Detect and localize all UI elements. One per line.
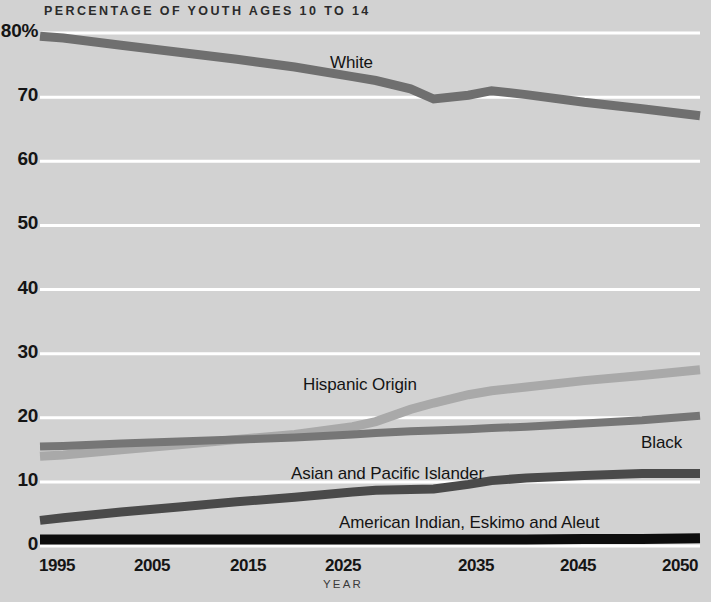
series-label-hispanic: Hispanic Origin: [303, 375, 417, 395]
y-tick-label: 50: [0, 212, 38, 234]
y-tick-label: 0: [0, 533, 38, 555]
x-tick-label: 1995: [39, 556, 75, 576]
y-tick-label: 60: [0, 148, 38, 170]
x-tick-label: 2050: [662, 556, 698, 576]
series-label-white: White: [330, 53, 373, 73]
chart-plot-area: [0, 0, 711, 602]
series-label-asian: Asian and Pacific Islander: [291, 464, 484, 484]
y-tick-label: 40: [0, 277, 38, 299]
x-tick-label: 2005: [134, 556, 170, 576]
x-axis-title: YEAR: [323, 578, 363, 590]
series-line-white: [40, 36, 700, 116]
series-line-american: [40, 538, 700, 539]
x-tick-label: 2045: [560, 556, 596, 576]
y-tick-label: 30: [0, 341, 38, 363]
chart-container: PERCENTAGE OF YOUTH AGES 10 TO 14 80%706…: [0, 0, 711, 602]
series-label-amerindian: American Indian, Eskimo and Aleut: [339, 513, 599, 533]
x-tick-label: 2035: [458, 556, 494, 576]
series-label-black: Black: [641, 433, 682, 453]
y-tick-label: 80%: [0, 20, 38, 42]
y-tick-label: 10: [0, 469, 38, 491]
y-tick-label: 20: [0, 405, 38, 427]
x-tick-label: 2015: [230, 556, 266, 576]
y-tick-label: 70: [0, 84, 38, 106]
x-tick-label: 2025: [325, 556, 361, 576]
